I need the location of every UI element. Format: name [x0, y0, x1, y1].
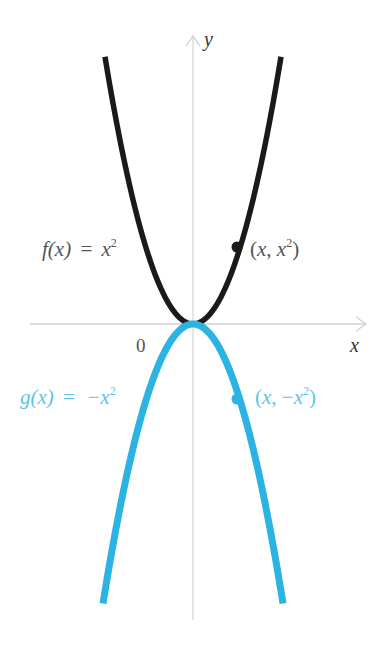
point-on-g	[232, 394, 243, 405]
point-on-f	[232, 242, 243, 253]
curve-f-label: f(x) = x2	[42, 236, 117, 261]
curve-g-label: g(x) = −x2	[20, 384, 116, 409]
y-axis-label: y	[202, 28, 213, 51]
point-f-label: (x, x2)	[250, 236, 299, 261]
point-g-label: (x, −x2)	[255, 384, 316, 409]
parabola-reflection-figure: y x 0 f(x) = x2 (x, x2) g(x) = −x2 (x, −…	[0, 0, 388, 646]
x-axis-label: x	[349, 334, 359, 356]
origin-label: 0	[136, 335, 146, 356]
